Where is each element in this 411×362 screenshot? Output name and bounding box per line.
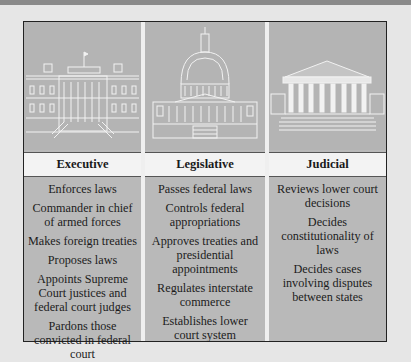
column-judicial: Judicial Reviews lower court decisions D…: [269, 22, 386, 341]
list-item: Commander in chief of armed forces: [28, 201, 137, 229]
column-header-executive: Executive: [24, 152, 141, 177]
list-item: Passes federal laws: [149, 182, 261, 196]
column-header-judicial: Judicial: [269, 152, 386, 177]
list-item: Decides cases involving disputes between…: [273, 262, 382, 304]
column-legislative: Legislative Passes federal laws Controls…: [145, 22, 265, 341]
executive-powers-list: Enforces laws Commander in chief of arme…: [24, 182, 141, 362]
judicial-powers-list: Reviews lower court decisions Decides co…: [269, 182, 386, 309]
list-item: Proposes laws: [28, 253, 137, 267]
capitol-building-icon: [145, 22, 265, 150]
list-item: Appoints Supreme Court justices and fede…: [28, 272, 137, 314]
list-item: Pardons those convicted in federal court: [28, 319, 137, 361]
column-header-legislative: Legislative: [145, 152, 265, 177]
list-item: Controls federal appropriations: [149, 201, 261, 229]
list-item: Enforces laws: [28, 182, 137, 196]
top-bar: [0, 0, 411, 5]
list-item: Reviews lower court decisions: [273, 182, 382, 210]
branches-of-government-diagram: Executive Enforces laws Commander in chi…: [23, 21, 387, 342]
legislative-powers-list: Passes federal laws Controls federal app…: [145, 182, 265, 347]
list-item: Establishes lower court system: [149, 314, 261, 342]
supreme-court-building-icon: [269, 22, 386, 150]
list-item: Decides constitutionality of laws: [273, 215, 382, 257]
column-executive: Executive Enforces laws Commander in chi…: [24, 22, 141, 341]
list-item: Regulates interstate commerce: [149, 281, 261, 309]
list-item: Approves treaties and presidential appoi…: [149, 234, 261, 276]
list-item: Makes foreign treaties: [28, 234, 137, 248]
white-house-icon: [24, 22, 141, 150]
